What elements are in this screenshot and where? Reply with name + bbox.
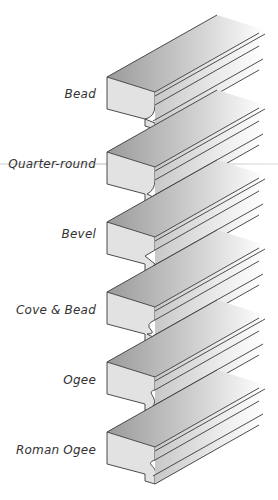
profile-label-ogee: Ogee: [63, 373, 96, 387]
profile-label-quarter-round: Quarter-round: [8, 157, 96, 171]
profile-label-cove-bead: Cove & Bead: [16, 303, 96, 317]
profile-label-bevel: Bevel: [62, 227, 96, 241]
edge-profiles-illustration: [0, 0, 278, 500]
profile-label-roman-ogee: Roman Ogee: [16, 443, 96, 457]
profile-label-bead: Bead: [65, 87, 96, 101]
